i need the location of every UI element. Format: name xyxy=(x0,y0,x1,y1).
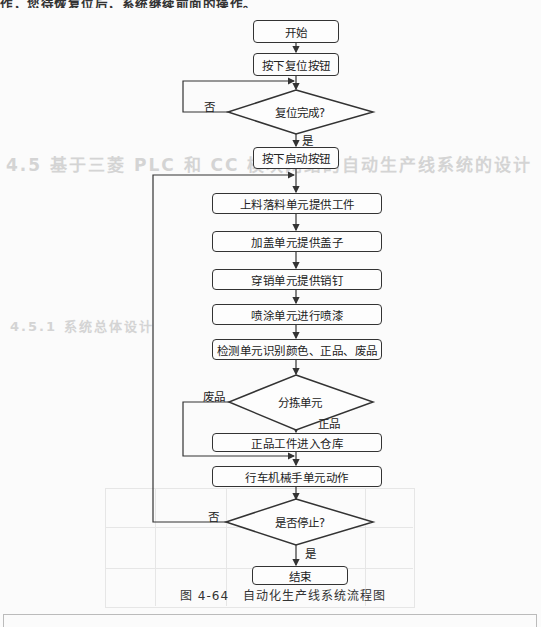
sort-good-label: 正品 xyxy=(318,415,340,431)
figure-caption: 图 4-64自动化生产线系统流程图 xyxy=(180,586,386,603)
cap-unit-step: 加盖单元提供盖子 xyxy=(212,231,382,252)
reset-no-label: 否 xyxy=(204,98,215,114)
crane-unit-step: 行车机械手单元动作 xyxy=(212,466,382,487)
reset-button-step: 按下复位按钮 xyxy=(253,53,339,76)
figure-number: 图 4-64 xyxy=(180,589,229,603)
stop-no-label: 否 xyxy=(208,508,219,524)
reset-done-decision: 复位完成? xyxy=(275,104,325,120)
paint-unit-step: 喷涂单元进行喷漆 xyxy=(212,304,382,325)
start-button-step: 按下启动按钮 xyxy=(253,147,339,169)
inspect-unit-step: 检测单元识别颜色、正品、废品 xyxy=(212,339,382,360)
end-terminal: 结束 xyxy=(252,566,348,585)
sort-reject-label: 废品 xyxy=(203,388,225,404)
reset-yes-label: 是 xyxy=(302,132,313,148)
document-page: 作，您待恢复位后，系统继续前面的操作。 4.5 基于三菱 PLC 和 CC 模块… xyxy=(0,0,541,627)
pin-unit-step: 穿销单元提供销钉 xyxy=(212,269,382,290)
figure-title: 自动化生产线系统流程图 xyxy=(243,589,386,603)
stop-check-decision: 是否停止? xyxy=(275,514,325,530)
feed-unit-step: 上料落料单元提供工件 xyxy=(212,193,382,214)
good-store-step: 正品工件进入仓库 xyxy=(212,433,382,452)
sort-unit-decision: 分拣单元 xyxy=(278,394,322,410)
stop-yes-label: 是 xyxy=(305,545,316,561)
next-frame-border xyxy=(3,614,537,627)
start-terminal: 开始 xyxy=(253,20,339,43)
